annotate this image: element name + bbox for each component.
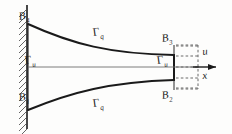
figure-container: B4 B1 B3 B2 Γq Γq Γu Γu u x	[0, 0, 232, 134]
label-b4: B4	[18, 10, 30, 25]
label-b1: B1	[18, 91, 30, 106]
label-b3: B3	[161, 32, 173, 47]
label-b2: B2	[161, 89, 173, 104]
label-gamma-u-left: Γu	[24, 54, 36, 70]
wall-hatching	[19, 9, 27, 134]
label-gamma-u-right: Γu	[156, 54, 168, 70]
label-u-axis: u	[202, 46, 208, 57]
label-gamma-q-bottom: Γq	[92, 97, 104, 113]
label-gamma-q-top: Γq	[92, 26, 104, 42]
label-x-axis: x	[202, 71, 208, 82]
